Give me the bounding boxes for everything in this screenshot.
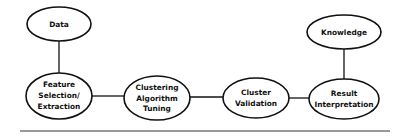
node-knowledge: Knowledge	[307, 15, 381, 49]
node-feature-label-line2: Selection/	[38, 91, 80, 100]
node-result-interpretation: Result Interpretation	[309, 79, 379, 119]
clustering-process-diagram: Data Feature Selection/ Extraction Clust…	[0, 0, 405, 140]
node-cluster-validation: Cluster Validation	[223, 78, 289, 118]
node-result-label-line1: Result	[331, 89, 358, 98]
node-validation-label-line2: Validation	[235, 99, 277, 108]
node-clustering-label-line2: Algorithm	[136, 94, 178, 103]
node-data-label: Data	[49, 20, 69, 29]
node-feature-selection: Feature Selection/ Extraction	[26, 73, 92, 119]
node-validation-label-line1: Cluster	[241, 88, 271, 97]
node-data: Data	[27, 7, 91, 41]
node-knowledge-label: Knowledge	[321, 28, 367, 37]
node-clustering-label-line3: Tuning	[143, 104, 171, 113]
node-feature-label-line1: Feature	[43, 80, 75, 89]
node-feature-label-line3: Extraction	[38, 102, 81, 111]
node-result-label-line2: Interpretation	[314, 100, 373, 109]
node-clustering-algorithm-tuning: Clustering Algorithm Tuning	[124, 76, 190, 120]
node-clustering-label-line1: Clustering	[136, 83, 179, 92]
